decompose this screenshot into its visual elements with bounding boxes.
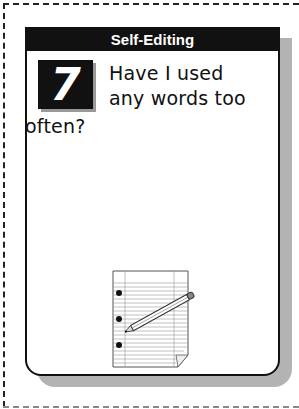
cut-line-left	[3, 3, 5, 407]
card-header: Self-Editing	[27, 29, 278, 51]
cut-line-top	[3, 3, 299, 5]
question-line-3: often?	[25, 115, 85, 137]
cut-line-bottom	[3, 406, 299, 408]
self-editing-card: Self-Editing 7 Have I used any words too…	[25, 27, 280, 376]
notepad-with-pencil-icon	[112, 269, 202, 375]
question-line-1: Have I used	[109, 62, 223, 84]
card-number: 7	[38, 60, 93, 109]
question-line-2: any words too	[109, 87, 246, 109]
